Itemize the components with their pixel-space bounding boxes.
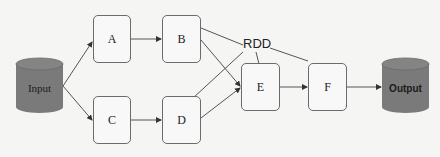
node-c: C	[93, 96, 131, 144]
diagram-canvas: Input Output A B C D E F RDD	[0, 0, 440, 157]
node-a-label: A	[108, 32, 117, 47]
edge-b-e	[201, 40, 240, 86]
node-a: A	[93, 15, 131, 63]
node-b-label: B	[177, 32, 185, 47]
output-label: Output	[389, 83, 422, 94]
node-e-label: E	[257, 80, 264, 95]
input-label: Input	[28, 82, 51, 94]
node-d-label: D	[177, 113, 186, 128]
edge-input-a	[63, 42, 92, 86]
rdd-annotation: RDD	[243, 36, 271, 51]
input-datastore: Input	[16, 64, 63, 110]
edges-layer	[0, 0, 440, 157]
node-f: F	[308, 63, 347, 111]
node-c-label: C	[108, 113, 116, 128]
edge-input-c	[63, 86, 92, 120]
node-b: B	[162, 15, 201, 63]
rdd-pointer-f	[270, 48, 308, 61]
node-d: D	[162, 96, 201, 144]
output-datastore: Output	[382, 64, 429, 110]
node-e: E	[241, 63, 280, 111]
node-f-label: F	[324, 80, 331, 95]
rdd-pointer-b	[201, 28, 243, 45]
edge-d-e	[201, 88, 240, 118]
